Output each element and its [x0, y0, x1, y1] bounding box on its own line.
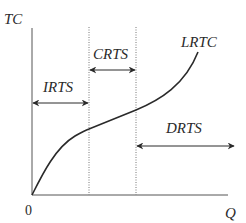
x-axis-label: Q [225, 205, 236, 221]
drts-label: DRTS [165, 120, 202, 136]
irts-label: IRTS [42, 79, 74, 95]
lrtc-label: LRTC [180, 34, 218, 50]
crts-label: CRTS [93, 46, 129, 62]
y-axis-label: TC [4, 11, 23, 27]
ltrc-diagram: TC Q 0 LRTC IRTS CRTS DRTS [0, 0, 246, 223]
origin-label: 0 [25, 203, 32, 218]
diagram-svg: TC Q 0 LRTC IRTS CRTS DRTS [0, 0, 246, 223]
